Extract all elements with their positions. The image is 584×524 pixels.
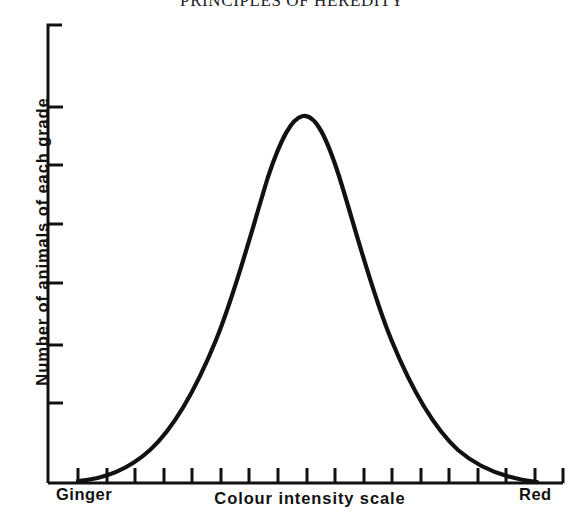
x-axis-label-ginger: Ginger [56, 485, 112, 504]
distribution-curve [78, 116, 537, 482]
figure-normal-distribution-curve: PRINCIPLES OF HEREDITY [0, 0, 584, 524]
x-axis-title: Colour intensity scale [120, 489, 500, 508]
x-axis-label-red: Red [519, 485, 552, 504]
plot-canvas [0, 0, 584, 524]
y-axis-title: Number of animals of each grade [33, 82, 52, 402]
